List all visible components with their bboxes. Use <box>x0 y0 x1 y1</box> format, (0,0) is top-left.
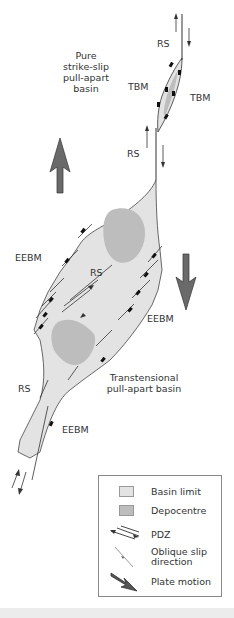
title-line-3: pull-apart <box>56 72 116 83</box>
label-tbm-left: TBM <box>128 81 149 92</box>
legend-item-pdz: PDZ <box>99 525 223 545</box>
plate-motion-arrow-icon <box>109 570 139 594</box>
basin-limit-swatch <box>119 486 134 497</box>
legend-label-line-2: direction <box>151 557 193 567</box>
label-rs-bottom-left: RS <box>18 383 31 394</box>
label-tbm-right: TBM <box>190 92 211 103</box>
legend-item-oblique-slip: Oblique slip direction <box>99 545 223 569</box>
pure-basin-title: Pure strike-slip pull-apart basin <box>56 50 116 94</box>
label-rs-top: RS <box>157 38 170 49</box>
legend-label: Depocentre <box>151 506 206 516</box>
legend-label: PDZ <box>151 530 171 540</box>
legend-label: Basin limit <box>151 487 201 497</box>
legend-label: Plate motion <box>151 577 211 587</box>
legend-item-basin-limit: Basin limit <box>99 484 223 504</box>
label-rs-inner: RS <box>90 267 103 278</box>
transtensional-basin-title: Transtensional pull-apart basin <box>104 372 184 394</box>
title-line-1: Pure <box>56 50 116 61</box>
plate-motion-arrow-down <box>176 254 196 310</box>
title-line-2: strike-slip <box>56 61 116 72</box>
legend-item-plate-motion: Plate motion <box>99 572 223 592</box>
oblique-slip-icon <box>113 545 137 569</box>
depocentre-swatch <box>119 505 134 516</box>
legend-item-depocentre: Depocentre <box>99 503 223 523</box>
label-rs-mid: RS <box>127 148 140 159</box>
label-eebm-right: EEBM <box>147 313 174 324</box>
lower-title-line-2: pull-apart basin <box>104 383 184 394</box>
label-eebm-bottom: EEBM <box>62 424 89 435</box>
lower-title-line-1: Transtensional <box>104 372 184 383</box>
lower-basin <box>12 180 162 495</box>
pdz-arrows-icon <box>109 525 141 543</box>
label-eebm-left: EEBM <box>15 252 42 263</box>
plate-motion-arrow-up <box>50 138 70 193</box>
legend: Basin limit Depocentre PDZ Oblique slip … <box>98 475 222 597</box>
title-line-4: basin <box>56 83 116 94</box>
bottom-bar <box>0 608 234 618</box>
